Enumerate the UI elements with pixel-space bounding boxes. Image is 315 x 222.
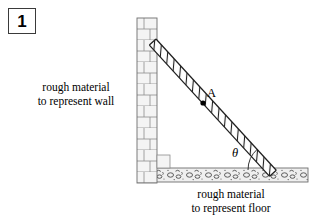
figure-canvas: A θ 1 rough material to represent wall r…: [0, 0, 315, 222]
point-a-marker: [200, 100, 205, 105]
wall-base-block: [157, 155, 170, 168]
wall-caption-line-1: rough material: [14, 81, 138, 95]
question-number-text: 1: [17, 13, 26, 30]
wall-caption: rough material to represent wall: [14, 81, 138, 108]
floor-caption: rough material to represent floor: [170, 188, 292, 215]
floor-slab: [147, 168, 308, 182]
question-number-box: 1: [8, 8, 36, 34]
floor-fill: [147, 168, 308, 182]
wall-caption-line-2: to represent wall: [14, 95, 138, 109]
angle-theta-label: θ: [232, 146, 238, 160]
floor-caption-line-1: rough material: [170, 188, 292, 202]
ladder-rail-upper: [156, 39, 276, 170]
floor-caption-line-2: to represent floor: [170, 202, 292, 216]
point-a-label: A: [207, 86, 216, 100]
